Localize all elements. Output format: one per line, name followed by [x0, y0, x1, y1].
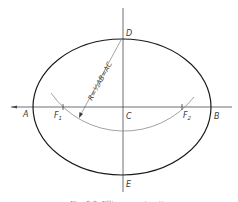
radius-arrow-icon	[79, 112, 83, 118]
label-f1: F1	[54, 111, 62, 121]
label-c: C	[126, 112, 132, 121]
label-e: E	[126, 180, 132, 189]
label-d: D	[126, 29, 132, 38]
axis-arrow-icon	[11, 106, 17, 109]
label-a: A	[22, 110, 28, 119]
label-f2: F2	[183, 111, 192, 121]
radius-formula: R=½AB=AC	[87, 60, 114, 102]
label-b: B	[214, 112, 220, 121]
figure-caption: Fig. 9-9. Ellipse construction	[70, 200, 173, 202]
ellipse-foci-diagram: A B C D E F1 F2 R=½AB=AC Fig. 9-9. Ellip…	[0, 0, 238, 202]
foci-arc	[51, 93, 194, 131]
